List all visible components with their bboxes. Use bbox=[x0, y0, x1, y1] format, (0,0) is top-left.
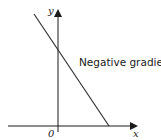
origin-label: 0 bbox=[48, 128, 55, 139]
gradient-diagram: y x 0 Negative gradient bbox=[0, 0, 161, 140]
negative-gradient-line bbox=[34, 14, 109, 126]
y-axis-arrow-icon bbox=[54, 9, 62, 17]
x-axis-label: x bbox=[133, 128, 139, 139]
gradient-annotation: Negative gradient bbox=[79, 56, 161, 68]
y-axis-label: y bbox=[47, 5, 54, 16]
